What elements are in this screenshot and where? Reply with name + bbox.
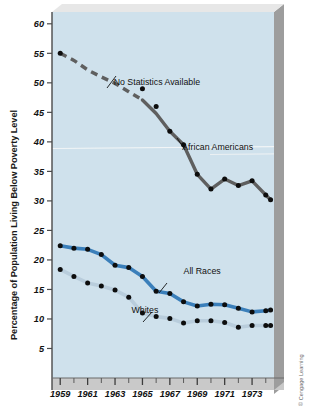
data-point: [140, 274, 145, 279]
y-axis-ticks: 60555045403530252015105: [33, 19, 52, 354]
data-point: [263, 308, 268, 313]
annotation-whites: Whites: [131, 305, 158, 315]
data-point: [167, 316, 172, 321]
annotation-no-statistics-available: No Statistics Available: [114, 77, 200, 87]
data-point: [268, 197, 273, 202]
data-point: [126, 265, 131, 270]
data-point: [113, 263, 118, 268]
y-tick-label-30: 30: [34, 196, 45, 206]
poverty-line-chart-figure: 60555045403530252015105 1959196119631965…: [0, 0, 317, 419]
plot-shadow-top: [52, 4, 284, 12]
data-point: [195, 318, 200, 323]
data-point: [154, 289, 159, 294]
annotation-african-americans: African Americans: [182, 142, 253, 152]
y-tick-label-55: 55: [34, 49, 45, 59]
data-point: [195, 303, 200, 308]
data-point: [71, 246, 76, 251]
y-tick-label-45: 45: [33, 108, 45, 118]
data-point: [181, 299, 186, 304]
data-point: [58, 243, 63, 248]
y-tick-label-10: 10: [34, 314, 45, 324]
data-point: [208, 318, 213, 323]
data-point: [71, 274, 76, 279]
y-tick-label-50: 50: [34, 78, 45, 88]
data-point: [85, 247, 90, 252]
copyright-credit: © Cengage Learning: [298, 354, 304, 406]
y-tick-label-25: 25: [33, 226, 45, 236]
data-point: [126, 295, 131, 300]
y-tick-label-5: 5: [39, 344, 45, 354]
x-tick-label-1965: 1965: [132, 389, 153, 399]
x-tick-label-1973: 1973: [242, 389, 262, 399]
plot-shadow-right: [274, 4, 284, 394]
y-axis-title: Percentage of Population Living Below Po…: [9, 110, 19, 340]
data-point: [268, 323, 273, 328]
data-point: [195, 172, 200, 177]
data-point: [263, 323, 268, 328]
data-point: [58, 51, 63, 56]
data-point: [181, 321, 186, 326]
data-point: [208, 187, 213, 192]
data-point: [268, 308, 273, 313]
data-point: [167, 129, 172, 134]
data-point: [99, 283, 104, 288]
data-point: [222, 302, 227, 307]
data-point: [250, 323, 255, 328]
data-point: [250, 178, 255, 183]
y-tick-label-15: 15: [34, 285, 45, 295]
y-tick-label-40: 40: [33, 137, 45, 147]
data-point: [222, 320, 227, 325]
data-point: [99, 252, 104, 257]
x-tick-label-1971: 1971: [214, 389, 234, 399]
data-point: [140, 86, 145, 91]
data-point: [85, 280, 90, 285]
y-tick-label-20: 20: [33, 255, 45, 265]
x-tick-label-1959: 1959: [50, 389, 71, 399]
data-point: [236, 325, 241, 330]
data-point: [222, 177, 227, 182]
annotation-all-races: All Races: [184, 266, 222, 276]
data-point: [250, 309, 255, 314]
y-tick-label-35: 35: [34, 167, 45, 177]
x-tick-label-1961: 1961: [77, 389, 97, 399]
data-point: [263, 193, 268, 198]
data-point: [154, 104, 159, 109]
data-point: [236, 306, 241, 311]
x-tick-label-1967: 1967: [160, 389, 181, 399]
data-point: [113, 288, 118, 293]
data-point: [167, 291, 172, 296]
chart-canvas: 60555045403530252015105 1959196119631965…: [0, 0, 317, 419]
x-tick-label-1969: 1969: [187, 389, 208, 399]
data-point: [236, 183, 241, 188]
data-point: [58, 267, 63, 272]
y-tick-label-60: 60: [34, 19, 45, 29]
x-tick-label-1963: 1963: [105, 389, 125, 399]
data-point: [208, 302, 213, 307]
